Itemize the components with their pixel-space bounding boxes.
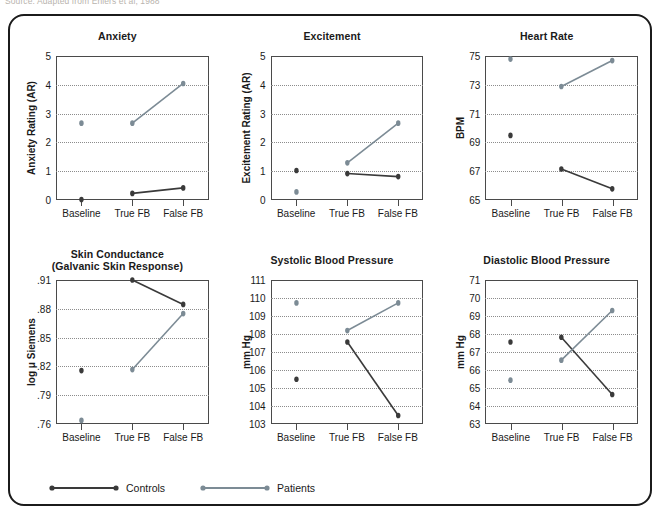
y-axis-title-holder: log μ Siemens [24, 280, 38, 424]
x-tick-label: Baseline [492, 432, 530, 443]
chart-panel: AnxietyAnxiety Rating (AR)012345Baseline… [10, 20, 225, 244]
series-line-segment [132, 280, 183, 304]
data-point [396, 300, 400, 306]
plot-area: 656769717375BaselineTrue FBFalse FB [485, 56, 638, 200]
data-point [610, 308, 614, 314]
series-layer [485, 280, 638, 433]
y-tick-label: 0 [45, 195, 51, 206]
data-point [396, 120, 400, 126]
data-point [559, 357, 563, 363]
chart-title-line: (Galvanic Skin Response) [10, 260, 225, 272]
series-line-segment [347, 303, 398, 331]
data-point [610, 186, 614, 192]
y-tick-label: 2 [260, 137, 266, 148]
y-axis-title-holder: mm Hg [453, 280, 467, 424]
plot-area: 012345BaselineTrue FBFalse FB [271, 56, 424, 200]
data-point [345, 328, 349, 334]
y-tick-label: 73 [469, 79, 480, 90]
y-axis-title-holder: BPM [453, 56, 467, 200]
series-controls [509, 334, 615, 397]
data-point [130, 277, 134, 283]
data-point [345, 171, 349, 177]
y-tick-label: 111 [250, 275, 265, 286]
data-point [181, 302, 185, 308]
chart-panel: Heart RateBPM656769717375BaselineTrue FB… [439, 20, 654, 244]
data-point [509, 339, 513, 345]
data-point [130, 191, 134, 197]
x-tick-label: False FB [163, 432, 203, 443]
x-tick-label: False FB [378, 208, 418, 219]
data-point [559, 166, 563, 172]
series-line-segment [562, 61, 613, 87]
y-tick-label: 106 [249, 365, 266, 376]
data-point [509, 133, 513, 139]
chart-title: Diastolic Blood Pressure [439, 254, 654, 266]
data-point [610, 58, 614, 64]
x-tick-label: False FB [163, 208, 203, 219]
data-point [79, 418, 83, 424]
chart-title-line: Skin Conductance [10, 248, 225, 260]
y-tick-label: 70 [469, 293, 480, 304]
series-layer [56, 280, 209, 433]
y-tick-label: 75 [469, 51, 480, 62]
series-controls [79, 277, 185, 373]
y-tick-label: 71 [469, 108, 480, 119]
x-tick-label: Baseline [62, 432, 100, 443]
series-line-segment [347, 342, 398, 415]
y-tick-label: 65 [469, 383, 480, 394]
data-point [345, 339, 349, 345]
y-tick-label: 69 [469, 137, 480, 148]
y-tick-label: 104 [249, 401, 266, 412]
y-axis-title-holder: Excitement Rating (AR) [239, 56, 253, 200]
y-tick-label: 105 [249, 383, 266, 394]
y-tick-label: 103 [249, 419, 266, 430]
x-tick-label: Baseline [492, 208, 530, 219]
legend-label: Patients [277, 482, 315, 494]
x-tick-label: True FB [114, 208, 150, 219]
chart-title-line: Diastolic Blood Pressure [439, 254, 654, 266]
chart-title-line: Anxiety [10, 30, 225, 42]
legend-item[interactable]: Controls [48, 482, 165, 494]
series-line-segment [132, 188, 183, 193]
chart-panel-grid: AnxietyAnxiety Rating (AR)012345Baseline… [10, 20, 654, 468]
x-tick-label: Baseline [277, 432, 315, 443]
y-tick-label: 67 [469, 166, 480, 177]
legend-label: Controls [126, 482, 165, 494]
x-tick-label: True FB [544, 208, 580, 219]
y-tick-label: .79 [37, 390, 51, 401]
series-layer [271, 280, 424, 433]
data-point [79, 368, 83, 374]
data-point [130, 120, 134, 126]
x-tick-label: False FB [593, 432, 633, 443]
data-point [130, 367, 134, 373]
y-tick-label: 109 [249, 311, 266, 322]
series-layer [271, 56, 424, 209]
y-tick-label: 4 [45, 79, 51, 90]
y-tick-label: 1 [45, 166, 51, 177]
y-tick-label: 71 [469, 275, 480, 286]
chart-title: Skin Conductance(Galvanic Skin Response) [10, 248, 225, 272]
y-tick-label: .88 [37, 303, 51, 314]
y-tick-label: 5 [45, 51, 51, 62]
series-line-segment [347, 123, 398, 163]
y-axis-title: Anxiety Rating (AR) [26, 81, 37, 175]
y-tick-label: 3 [45, 108, 51, 119]
y-tick-label: .91 [37, 275, 51, 286]
chart-panel: Diastolic Blood Pressuremm Hg63646566676… [439, 244, 654, 468]
series-layer [56, 56, 209, 209]
y-tick-label: 4 [260, 79, 266, 90]
y-tick-label: 66 [469, 365, 480, 376]
x-tick-label: True FB [114, 432, 150, 443]
y-tick-label: 107 [249, 347, 266, 358]
series-controls [509, 133, 615, 192]
series-patients [294, 300, 400, 333]
plot-area: 636465666768697071BaselineTrue FBFalse F… [485, 280, 638, 424]
x-tick-label: True FB [329, 208, 365, 219]
series-patients [79, 311, 185, 424]
x-tick-label: True FB [544, 432, 580, 443]
line-with-dots-icon [199, 482, 271, 494]
y-tick-label: 63 [469, 419, 480, 430]
data-point [345, 160, 349, 166]
series-patients [509, 56, 615, 89]
legend-item[interactable]: Patients [199, 482, 315, 494]
